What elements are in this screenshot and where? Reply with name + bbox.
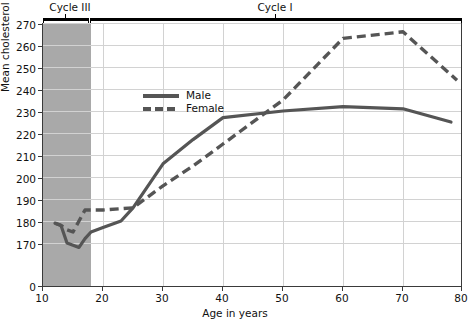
bracket-label-cycle-i: Cycle I [245, 1, 305, 13]
y-tick-190: 190 [4, 195, 36, 207]
y-tick-200: 200 [4, 173, 36, 185]
y-tick-180: 180 [4, 217, 36, 229]
y-tick-250: 250 [4, 63, 36, 75]
legend-item-female: Female [143, 102, 224, 115]
x-tick-10: 10 [22, 292, 62, 304]
y-tick-260: 260 [4, 41, 36, 53]
x-tick-mark [402, 287, 403, 291]
cholesterol-line-chart: Cycle III Cycle I Mean cholesterol (mg/1… [0, 0, 470, 322]
bracket-tick-cycle-iii [65, 14, 66, 18]
x-tick-40: 40 [202, 292, 242, 304]
legend-item-male: Male [143, 89, 224, 102]
bracket-tick-cycle-i [275, 14, 276, 18]
bracket-bar-cycle-i [90, 18, 461, 21]
y-tick-230: 230 [4, 107, 36, 119]
x-tick-mark [162, 287, 163, 291]
legend-swatch-dashed-icon [143, 107, 179, 111]
x-tick-60: 60 [322, 292, 362, 304]
x-tick-70: 70 [382, 292, 422, 304]
plot-area: Male Female [42, 23, 462, 287]
x-axis-title: Age in years [0, 307, 470, 319]
series-line-male [55, 107, 451, 248]
x-tick-mark [461, 287, 462, 291]
y-tick-220: 220 [4, 129, 36, 141]
x-tick-80: 80 [441, 292, 470, 304]
y-tick-270: 270 [4, 19, 36, 31]
y-tick-240: 240 [4, 85, 36, 97]
bracket-label-cycle-iii: Cycle III [40, 1, 100, 13]
y-tick-170: 170 [4, 239, 36, 251]
x-tick-20: 20 [82, 292, 122, 304]
legend: Male Female [143, 89, 224, 115]
y-tick-210: 210 [4, 151, 36, 163]
x-tick-mark [282, 287, 283, 291]
x-tick-50: 50 [262, 292, 302, 304]
legend-swatch-solid-icon [143, 94, 179, 98]
x-tick-mark [222, 287, 223, 291]
x-tick-mark [102, 287, 103, 291]
series-line-female [55, 32, 457, 232]
series-lines-svg [43, 23, 462, 287]
bracket-bar-cycle-iii [43, 18, 88, 21]
legend-label-female: Female [186, 102, 224, 115]
x-tick-mark [42, 287, 43, 291]
legend-label-male: Male [186, 89, 211, 102]
x-tick-mark [342, 287, 343, 291]
x-tick-30: 30 [142, 292, 182, 304]
